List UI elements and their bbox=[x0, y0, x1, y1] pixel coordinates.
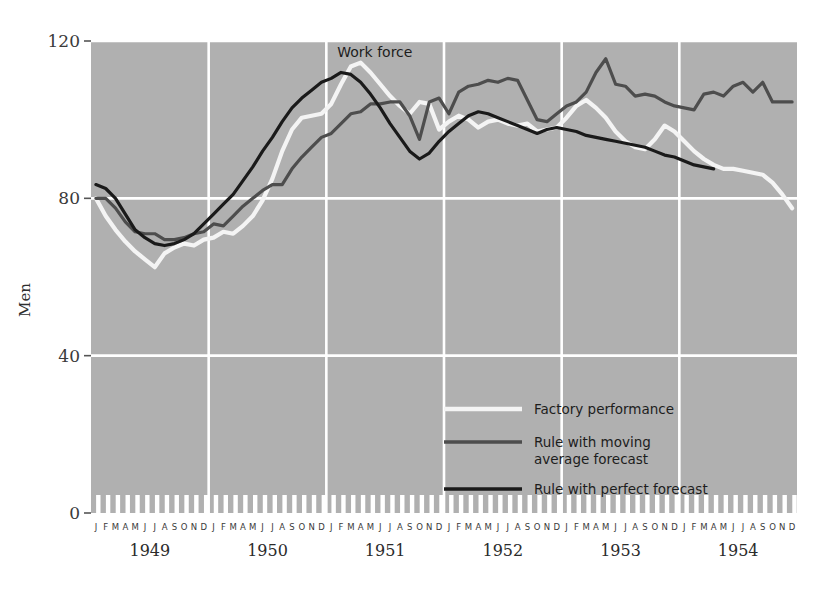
x-month-label: F bbox=[692, 522, 697, 532]
x-month-label: A bbox=[279, 522, 285, 532]
x-tick-mark bbox=[292, 495, 296, 513]
x-month-label: J bbox=[505, 522, 509, 532]
x-month-label: N bbox=[191, 522, 197, 532]
x-tick-mark bbox=[410, 495, 414, 513]
y-tick-label-80: 80 bbox=[58, 188, 80, 208]
x-tick-mark bbox=[116, 495, 120, 513]
x-tick-mark bbox=[165, 495, 169, 513]
x-month-label: A bbox=[750, 522, 756, 532]
x-tick-mark bbox=[214, 495, 218, 513]
x-tick-mark bbox=[175, 495, 179, 513]
x-month-label: A bbox=[475, 522, 481, 532]
x-month-label: M bbox=[484, 522, 491, 532]
y-tick-label-0: 0 bbox=[69, 503, 80, 523]
x-year-label-1950: 1950 bbox=[247, 541, 288, 560]
x-tick-mark bbox=[792, 495, 796, 513]
x-month-label: N bbox=[779, 522, 785, 532]
x-tick-mark bbox=[459, 495, 463, 513]
x-year-label-1954: 1954 bbox=[718, 541, 759, 560]
x-month-label: M bbox=[230, 522, 237, 532]
x-tick-mark bbox=[479, 495, 483, 513]
x-tick-mark bbox=[312, 495, 316, 513]
legend-label-1: Rule with moving bbox=[534, 434, 651, 450]
x-month-label: J bbox=[260, 522, 264, 532]
x-tick-mark bbox=[684, 495, 688, 513]
x-month-label: M bbox=[249, 522, 256, 532]
x-tick-mark bbox=[753, 495, 757, 513]
x-month-label: F bbox=[103, 522, 108, 532]
x-tick-mark bbox=[361, 495, 365, 513]
x-month-label: J bbox=[270, 522, 274, 532]
x-month-label: A bbox=[711, 522, 717, 532]
x-tick-mark bbox=[429, 495, 433, 513]
x-month-label: N bbox=[544, 522, 550, 532]
x-month-label: O bbox=[298, 522, 305, 532]
x-month-label: J bbox=[94, 522, 98, 532]
x-tick-mark bbox=[204, 495, 208, 513]
x-month-label: F bbox=[456, 522, 461, 532]
x-tick-mark bbox=[263, 495, 267, 513]
x-tick-mark bbox=[233, 495, 237, 513]
x-tick-mark bbox=[184, 495, 188, 513]
x-month-label: A bbox=[358, 522, 364, 532]
x-tick-mark bbox=[488, 495, 492, 513]
x-tick-mark bbox=[645, 495, 649, 513]
x-year-label-1953: 1953 bbox=[600, 541, 641, 560]
x-tick-mark bbox=[773, 495, 777, 513]
x-month-label: N bbox=[308, 522, 314, 532]
x-tick-mark bbox=[704, 495, 708, 513]
x-tick-mark bbox=[400, 495, 404, 513]
x-month-label: D bbox=[671, 522, 678, 532]
x-month-label: S bbox=[760, 522, 765, 532]
x-tick-mark bbox=[547, 495, 551, 513]
x-month-label: F bbox=[339, 522, 344, 532]
x-tick-mark bbox=[675, 495, 679, 513]
x-tick-mark bbox=[714, 495, 718, 513]
x-month-label: S bbox=[172, 522, 177, 532]
chart-annotation-work-force: Work force bbox=[337, 44, 412, 60]
x-month-label: J bbox=[564, 522, 568, 532]
x-tick-mark bbox=[243, 495, 247, 513]
x-month-label: A bbox=[515, 522, 521, 532]
legend-label-0: Factory performance bbox=[534, 401, 674, 417]
x-tick-mark bbox=[322, 495, 326, 513]
x-month-label: S bbox=[642, 522, 647, 532]
y-tick-label-40: 40 bbox=[58, 346, 80, 366]
x-month-label: J bbox=[143, 522, 147, 532]
legend-label-2: Rule with perfect forecast bbox=[534, 481, 708, 497]
y-tick-label-120: 120 bbox=[48, 31, 80, 51]
x-tick-mark bbox=[253, 495, 257, 513]
x-tick-mark bbox=[341, 495, 345, 513]
x-tick-mark bbox=[331, 495, 335, 513]
y-axis-title: Men bbox=[16, 283, 34, 317]
x-month-label: A bbox=[162, 522, 168, 532]
x-tick-mark bbox=[567, 495, 571, 513]
x-month-label: F bbox=[574, 522, 579, 532]
x-tick-mark bbox=[420, 495, 424, 513]
x-month-label: M bbox=[347, 522, 354, 532]
x-month-label: J bbox=[388, 522, 392, 532]
x-tick-mark bbox=[724, 495, 728, 513]
x-tick-mark bbox=[596, 495, 600, 513]
x-month-label: M bbox=[465, 522, 472, 532]
x-month-label: J bbox=[613, 522, 617, 532]
x-tick-mark bbox=[606, 495, 610, 513]
x-year-label-1949: 1949 bbox=[129, 541, 170, 560]
x-tick-mark bbox=[371, 495, 375, 513]
x-month-label: D bbox=[436, 522, 443, 532]
x-month-label: J bbox=[378, 522, 382, 532]
x-month-label: O bbox=[416, 522, 423, 532]
x-year-label-1951: 1951 bbox=[365, 541, 406, 560]
x-month-label: D bbox=[553, 522, 560, 532]
x-tick-mark bbox=[655, 495, 659, 513]
annotation-layer: Work force bbox=[337, 44, 412, 60]
x-month-label: A bbox=[632, 522, 638, 532]
x-tick-mark bbox=[135, 495, 139, 513]
x-month-label: N bbox=[426, 522, 432, 532]
x-tick-mark bbox=[302, 495, 306, 513]
x-month-label: J bbox=[741, 522, 745, 532]
x-tick-mark bbox=[380, 495, 384, 513]
x-month-label: A bbox=[397, 522, 403, 532]
x-month-label: O bbox=[769, 522, 776, 532]
x-tick-mark bbox=[528, 495, 532, 513]
